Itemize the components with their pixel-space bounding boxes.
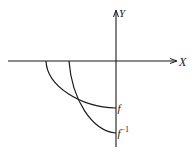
curve-f-inverse-superscript: −1 <box>121 125 130 134</box>
function-inverse-diagram: X Y f f−1 <box>0 0 195 153</box>
curve-f-inverse-label: f−1 <box>118 125 130 139</box>
y-axis-label: Y <box>119 7 127 19</box>
x-axis-label: X <box>178 55 187 69</box>
curve-f-inverse <box>69 61 116 133</box>
curve-f-label: f <box>118 102 123 114</box>
x-axis <box>8 59 177 64</box>
curve-f <box>46 61 116 108</box>
